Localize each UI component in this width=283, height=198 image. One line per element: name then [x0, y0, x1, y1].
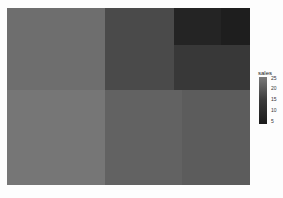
treemap-tile — [105, 8, 174, 90]
legend-tick: 10 — [271, 107, 277, 113]
treemap-tile — [174, 8, 221, 45]
legend-tick: 15 — [271, 96, 277, 102]
legend-tick: 20 — [271, 85, 277, 91]
legend-colorbar — [259, 77, 267, 124]
treemap-tile — [174, 45, 250, 90]
treemap-tile — [105, 90, 182, 185]
legend-tick: 25 — [271, 75, 277, 81]
treemap-panel — [7, 8, 250, 185]
treemap-tile — [7, 90, 105, 185]
treemap-tile — [221, 8, 250, 45]
treemap-tile — [182, 90, 250, 185]
legend-title: sales — [258, 70, 272, 76]
treemap-tile — [7, 8, 105, 90]
legend-tick: 5 — [271, 118, 274, 124]
